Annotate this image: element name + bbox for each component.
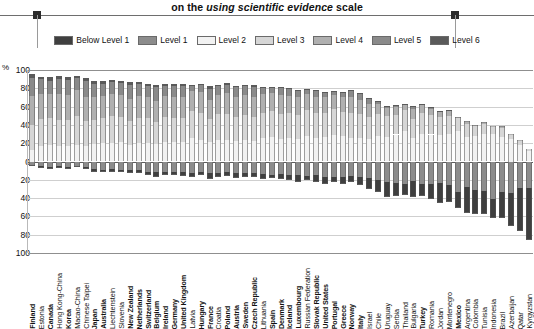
legend-item[interactable]: Level 4 — [313, 35, 362, 45]
bar-segment — [428, 107, 434, 108]
bar-stack[interactable] — [65, 70, 71, 253]
bar-segment — [233, 97, 239, 118]
bar-stack[interactable] — [189, 70, 195, 253]
bar-segment — [242, 140, 248, 162]
bar-stack[interactable] — [464, 70, 470, 253]
x-axis-tick-label: Canada — [47, 304, 54, 329]
x-axis-tick-label: Indonesia — [490, 299, 497, 329]
bar-stack[interactable] — [171, 70, 177, 253]
x-axis-tick-label: Slovak Republic — [313, 275, 320, 329]
bar-stack[interactable] — [207, 70, 213, 253]
bar-stack[interactable] — [331, 70, 337, 253]
bar-stack[interactable] — [38, 70, 44, 253]
bar-stack[interactable] — [490, 70, 496, 253]
bar-stack[interactable] — [162, 70, 168, 253]
bar-segment — [508, 134, 514, 138]
bar-stack[interactable] — [153, 70, 159, 253]
bar-stack[interactable] — [74, 70, 80, 253]
bar-segment — [260, 87, 266, 88]
bar-stack[interactable] — [304, 70, 310, 253]
bar-stack[interactable] — [340, 70, 346, 253]
bar-segment — [171, 84, 177, 86]
bar-segment — [162, 96, 168, 117]
bar-segment — [286, 96, 292, 114]
bar-segment — [295, 90, 301, 91]
bar-stack[interactable] — [260, 70, 266, 253]
bar-stack[interactable] — [348, 70, 354, 253]
bar-stack[interactable] — [180, 70, 186, 253]
bar-segment — [29, 74, 35, 78]
bar-stack[interactable] — [437, 70, 443, 253]
bar-stack[interactable] — [251, 70, 257, 253]
bar-stack[interactable] — [47, 70, 53, 253]
bar-stack[interactable] — [446, 70, 452, 253]
bar-stack[interactable] — [393, 70, 399, 253]
bar-stack[interactable] — [109, 70, 115, 253]
bar-stack[interactable] — [233, 70, 239, 253]
bar-stack[interactable] — [215, 70, 221, 253]
bar-stack[interactable] — [402, 70, 408, 253]
bar-stack[interactable] — [224, 70, 230, 253]
bar-stack[interactable] — [313, 70, 319, 253]
bar-segment — [180, 172, 186, 176]
bar-stack[interactable] — [278, 70, 284, 253]
bar-stack[interactable] — [357, 70, 363, 253]
bar-stack[interactable] — [295, 70, 301, 253]
bar-stack[interactable] — [242, 70, 248, 253]
legend-item[interactable]: Level 2 — [197, 35, 246, 45]
bar-stack[interactable] — [526, 70, 532, 253]
bar-segment — [286, 88, 292, 89]
bar-stack[interactable] — [481, 70, 487, 253]
bar-segment — [526, 162, 532, 189]
bar-stack[interactable] — [145, 70, 151, 253]
bar-stack[interactable] — [508, 70, 514, 253]
bar-stack[interactable] — [375, 70, 381, 253]
legend-item[interactable]: Level 6 — [430, 35, 479, 45]
bar-segment — [508, 193, 514, 226]
legend-swatch-icon — [255, 36, 274, 45]
legend-item[interactable]: Level 1 — [138, 35, 187, 45]
bar-stack[interactable] — [322, 70, 328, 253]
bar-segment — [153, 144, 159, 161]
bar-stack[interactable] — [127, 70, 133, 253]
bar-stack[interactable] — [472, 70, 478, 253]
bar-segment — [180, 86, 186, 97]
bar-stack[interactable] — [419, 70, 425, 253]
bar-stack[interactable] — [29, 70, 35, 253]
bar-stack[interactable] — [410, 70, 416, 253]
bar-stack[interactable] — [384, 70, 390, 253]
bar-stack[interactable] — [286, 70, 292, 253]
bar-segment — [481, 122, 487, 123]
bar-segment — [91, 97, 97, 119]
bar-stack[interactable] — [455, 70, 461, 253]
bar-stack[interactable] — [91, 70, 97, 253]
bar-segment — [127, 162, 133, 170]
bar-segment — [251, 97, 257, 117]
bar-stack[interactable] — [83, 70, 89, 253]
legend-item[interactable]: Level 5 — [372, 35, 421, 45]
bar-stack[interactable] — [198, 70, 204, 253]
bar-stack[interactable] — [517, 70, 523, 253]
bar-stack[interactable] — [499, 70, 505, 253]
legend-item[interactable]: Below Level 1 — [54, 35, 129, 45]
x-axis-tick-label: Romania — [428, 301, 435, 329]
bar-stack[interactable] — [136, 70, 142, 253]
bar-stack[interactable] — [100, 70, 106, 253]
bar-stack[interactable] — [56, 70, 62, 253]
bar-segment — [145, 172, 151, 176]
x-axis-tick-label: Chile — [375, 313, 382, 329]
bar-segment — [517, 162, 523, 189]
bar-stack[interactable] — [269, 70, 275, 253]
legend-label: Level 5 — [394, 35, 421, 45]
bar-segment — [136, 170, 142, 173]
bar-stack[interactable] — [366, 70, 372, 253]
bar-stack[interactable] — [428, 70, 434, 253]
x-axis-tick-label: Serbia — [393, 309, 400, 329]
bar-segment — [91, 162, 97, 169]
bar-segment — [295, 162, 301, 176]
x-axis-tick-label: Korea — [65, 309, 72, 329]
legend-item[interactable]: Level 3 — [255, 35, 304, 45]
bar-stack[interactable] — [118, 70, 124, 253]
legend-swatch-icon — [372, 36, 391, 45]
x-axis-tick-label: Argentina — [464, 299, 471, 329]
